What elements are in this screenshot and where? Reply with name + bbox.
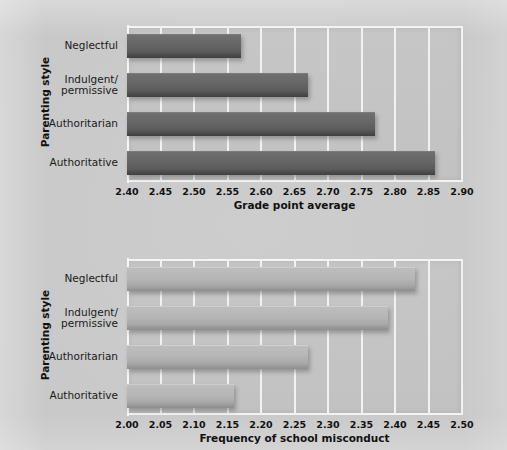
category-label: Indulgent/permissive [61, 73, 127, 96]
category-label: Neglectful [64, 40, 127, 52]
grid-line [461, 26, 463, 182]
x-tick-label: 2.15 [216, 419, 239, 430]
figure-page: Parenting style NeglectfulIndulgent/perm… [0, 0, 507, 450]
x-tick-label: 2.45 [149, 186, 172, 197]
bar-face [127, 112, 375, 136]
x-axis-title-top: Grade point average [127, 199, 462, 211]
x-tick-label: 2.75 [350, 186, 373, 197]
y-axis-title-bottom: Parenting style [39, 280, 51, 390]
x-tick-label: 2.50 [450, 419, 473, 430]
x-tick-label: 2.65 [283, 186, 306, 197]
plot-area-top: NeglectfulIndulgent/permissiveAuthoritar… [127, 26, 462, 182]
bar-face [127, 345, 308, 369]
category-label-line: Authoritative [49, 157, 118, 169]
x-tick-label: 2.50 [182, 186, 205, 197]
category-label: Neglectful [64, 273, 127, 285]
bar [127, 112, 375, 136]
category-label: Authoritative [49, 157, 127, 169]
category-label: Indulgent/permissive [61, 306, 127, 329]
chart-panel-grade-point-average: Parenting style NeglectfulIndulgent/perm… [0, 0, 507, 225]
chart-panel-school-misconduct: Parenting style NeglectfulIndulgent/perm… [0, 225, 507, 450]
category-label-line: permissive [61, 318, 118, 330]
bar-face [127, 267, 415, 291]
category-label: Authoritarian [49, 351, 127, 363]
x-tick-label: 2.55 [216, 186, 239, 197]
bar-face [127, 384, 234, 408]
bar [127, 151, 435, 175]
category-label-line: permissive [61, 85, 118, 97]
bar [127, 267, 415, 291]
category-label: Authoritarian [49, 118, 127, 130]
category-label-line: Authoritarian [49, 351, 118, 363]
bar-face [127, 34, 241, 58]
category-label: Authoritative [49, 390, 127, 402]
x-tick-label: 2.85 [417, 186, 440, 197]
category-label-line: Neglectful [64, 273, 118, 285]
x-tick-label: 2.00 [115, 419, 138, 430]
bar [127, 345, 308, 369]
x-tick-label: 2.40 [383, 419, 406, 430]
bar [127, 384, 234, 408]
x-tick-label: 2.45 [417, 419, 440, 430]
category-label-line: Authoritative [49, 390, 118, 402]
category-label-line: Indulgent/ [61, 306, 118, 318]
x-tick-label: 2.40 [115, 186, 138, 197]
bar-face [127, 73, 308, 97]
x-tick-label: 2.70 [316, 186, 339, 197]
y-axis-title-top: Parenting style [39, 47, 51, 157]
category-label-line: Neglectful [64, 40, 118, 52]
grid-line [461, 259, 463, 415]
x-axis-title-bottom: Frequency of school misconduct [127, 432, 462, 444]
category-label-line: Authoritarian [49, 118, 118, 130]
x-tick-label: 2.90 [450, 186, 473, 197]
x-tick-label: 2.20 [249, 419, 272, 430]
x-tick-label: 2.25 [283, 419, 306, 430]
x-tick-label: 2.30 [316, 419, 339, 430]
bar-face [127, 306, 388, 330]
bar [127, 73, 308, 97]
bar [127, 34, 241, 58]
x-tick-label: 2.35 [350, 419, 373, 430]
category-label-line: Indulgent/ [61, 73, 118, 85]
bar-face [127, 151, 435, 175]
x-tick-label: 2.10 [182, 419, 205, 430]
x-tick-label: 2.80 [383, 186, 406, 197]
x-tick-label: 2.05 [149, 419, 172, 430]
grid-line [428, 259, 430, 415]
x-tick-label: 2.60 [249, 186, 272, 197]
bar [127, 306, 388, 330]
plot-area-bottom: NeglectfulIndulgent/permissiveAuthoritar… [127, 259, 462, 415]
